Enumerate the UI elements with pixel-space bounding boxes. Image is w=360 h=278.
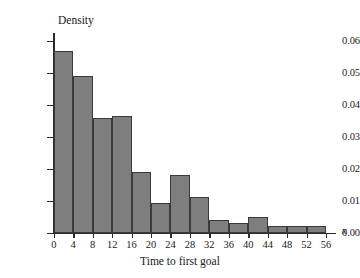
y-axis-tick [47, 41, 54, 42]
x-axis-title: Time to first goal [0, 255, 360, 267]
histogram-bar [93, 118, 112, 233]
plot-area: Density Time to first goal x 0.000.010.0… [0, 0, 360, 278]
y-axis-tick [47, 169, 54, 170]
x-axis-tick [248, 233, 249, 238]
y-axis-tick-label: 0.01 [314, 196, 360, 207]
histogram-bar [268, 226, 287, 232]
y-axis-title: Density [58, 14, 94, 26]
y-axis-tick-label: 0.03 [314, 132, 360, 143]
histogram-bar [229, 223, 248, 233]
x-axis-tick [151, 233, 152, 238]
x-axis-tick [307, 233, 308, 238]
histogram-bar [132, 172, 151, 233]
histogram-bar [54, 51, 73, 233]
y-axis-tick [47, 137, 54, 138]
x-axis-tick [132, 233, 133, 238]
x-axis-line [53, 233, 336, 235]
y-axis-tick [47, 105, 54, 106]
y-axis-tick-label: 0.06 [314, 36, 360, 47]
y-axis-tick-label: 0.04 [314, 100, 360, 111]
x-axis-tick [112, 233, 113, 238]
histogram-bar [287, 226, 306, 232]
histogram-bar [170, 175, 189, 232]
y-axis-tick [47, 73, 54, 74]
histogram-bar [248, 217, 267, 233]
x-axis-tick [54, 233, 55, 238]
histogram-bar [112, 116, 131, 233]
x-axis-tick [170, 233, 171, 238]
histogram-bar [190, 197, 209, 232]
y-axis-tick [47, 201, 54, 202]
x-axis-tick [268, 233, 269, 238]
histogram-bar [73, 76, 92, 232]
x-axis-tick [190, 233, 191, 238]
y-axis-tick-label: 0.02 [314, 164, 360, 175]
histogram-bar [209, 220, 228, 233]
histogram-figure: Density Time to first goal x 0.000.010.0… [0, 0, 360, 278]
histogram-bar [151, 203, 170, 233]
x-axis-tick-label: 56 [314, 240, 338, 251]
x-axis-tick [209, 233, 210, 238]
x-axis-tick [326, 233, 327, 238]
x-axis-tick [287, 233, 288, 238]
y-axis-tick-label: 0.00 [314, 228, 360, 239]
y-axis-tick-label: 0.05 [314, 68, 360, 79]
x-axis-tick [73, 233, 74, 238]
x-axis-tick [229, 233, 230, 238]
x-axis-tick [93, 233, 94, 238]
